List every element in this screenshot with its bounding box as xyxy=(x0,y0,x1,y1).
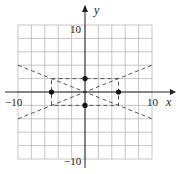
y-axis-arrow-icon xyxy=(82,5,88,12)
data-point xyxy=(49,89,54,94)
data-point xyxy=(82,103,87,108)
y-axis-label: y xyxy=(93,3,100,17)
x-tick-min: −10 xyxy=(5,96,23,108)
chart: x y −10 10 10 −10 xyxy=(0,0,178,174)
y-tick-max: 10 xyxy=(70,23,82,35)
x-tick-max: 10 xyxy=(147,96,159,108)
data-point xyxy=(82,76,87,81)
x-axis-label: x xyxy=(165,95,172,109)
data-point xyxy=(116,89,121,94)
y-tick-min: −10 xyxy=(64,155,82,167)
axes xyxy=(5,5,176,168)
